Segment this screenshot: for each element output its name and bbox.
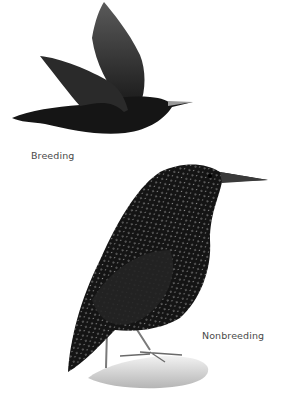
eye xyxy=(208,174,212,178)
nonbreeding-label: Nonbreeding xyxy=(202,330,264,341)
beak xyxy=(220,172,268,183)
beak xyxy=(168,101,193,106)
breeding-bird xyxy=(12,2,193,134)
birds-drawing xyxy=(0,0,287,406)
illustration-plate: Breeding Nonbreeding xyxy=(0,0,287,406)
breeding-label: Breeding xyxy=(31,150,74,161)
nonbreeding-bird xyxy=(68,165,268,389)
